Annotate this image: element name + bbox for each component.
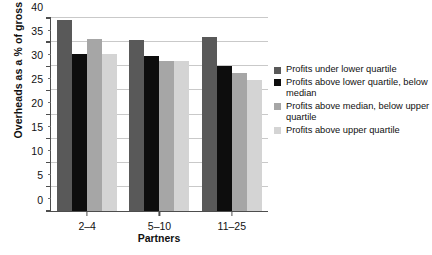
bar: [102, 54, 117, 211]
legend-item: Profits above upper quartile: [274, 125, 430, 137]
legend-label: Profits above upper quartile: [286, 125, 400, 137]
y-axis-label: 40: [31, 1, 43, 13]
bar: [144, 56, 159, 211]
legend-label: Profits above lower quartile, below medi…: [286, 77, 430, 100]
bar: [217, 66, 232, 211]
y-axis-label: 15: [31, 121, 43, 133]
legend-swatch-icon: [274, 127, 281, 134]
x-axis-tick: [159, 211, 160, 216]
legend-label: Profits above median, below upper quarti…: [286, 101, 430, 124]
legend-label: Profits under lower quartile: [286, 64, 397, 76]
bar: [72, 54, 87, 211]
bar-group: 11–25: [196, 18, 268, 211]
y-axis-label: 20: [31, 97, 43, 109]
y-axis-label: 35: [31, 25, 43, 37]
bar: [232, 73, 247, 211]
legend-item: Profits above median, below upper quarti…: [274, 101, 430, 124]
x-axis-tick: [87, 211, 88, 216]
x-axis-tick: [231, 211, 232, 216]
bar-group: 2–4: [51, 18, 123, 211]
x-axis-label: 5–10: [148, 220, 171, 232]
y-axis-label: 30: [31, 49, 43, 61]
legend-swatch-icon: [274, 103, 281, 110]
y-axis-title: Overheads as a % of gross fees: [12, 0, 24, 166]
legend-item: Profits under lower quartile: [274, 64, 430, 76]
bar: [159, 61, 174, 211]
legend-swatch-icon: [274, 67, 281, 74]
x-axis-label: 11–25: [218, 220, 246, 232]
x-axis-label: 2–4: [78, 220, 96, 232]
bar-groups: 2–45–1011–25: [51, 18, 268, 211]
legend-item: Profits above lower quartile, below medi…: [274, 77, 430, 100]
bar: [247, 80, 262, 211]
x-axis-title: Partners: [50, 232, 268, 244]
bar: [57, 20, 72, 211]
bar-group: 5–10: [123, 18, 195, 211]
plot-area: 0510152025303540 2–45–1011–25: [50, 18, 268, 212]
bar: [174, 61, 189, 211]
y-axis-label: 10: [31, 145, 43, 157]
legend-swatch-icon: [274, 79, 281, 86]
y-axis-label: 5: [37, 169, 43, 181]
y-axis-label: 0: [37, 194, 43, 206]
bar: [87, 39, 102, 211]
bar: [202, 37, 217, 211]
chart-legend: Profits under lower quartileProfits abov…: [274, 64, 430, 137]
bar: [129, 40, 144, 211]
bar-chart: Overheads as a % of gross fees 051015202…: [0, 0, 432, 255]
y-axis-label: 25: [31, 73, 43, 85]
